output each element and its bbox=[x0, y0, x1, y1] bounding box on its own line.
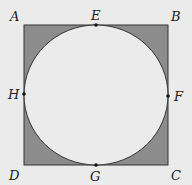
label-a: A bbox=[9, 9, 19, 24]
label-e: E bbox=[90, 8, 101, 23]
inscribed-circle bbox=[24, 25, 168, 165]
label-f: F bbox=[173, 89, 184, 104]
label-b: B bbox=[170, 9, 181, 24]
point-f-dot bbox=[166, 94, 170, 98]
label-c: C bbox=[171, 168, 181, 183]
label-g: G bbox=[90, 169, 100, 184]
label-d: D bbox=[8, 168, 20, 183]
point-h-dot bbox=[22, 92, 26, 96]
label-h: H bbox=[7, 87, 20, 102]
diagram: A B C D E F G H bbox=[0, 0, 192, 185]
geometry-figure: A B C D E F G H bbox=[0, 0, 192, 185]
point-e-dot bbox=[94, 23, 98, 27]
point-g-dot bbox=[94, 163, 98, 167]
